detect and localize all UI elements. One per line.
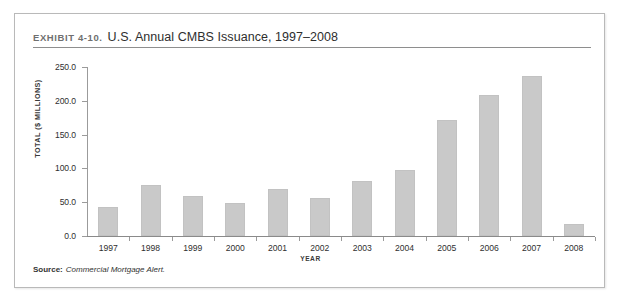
source-text: Commercial Mortgage Alert.	[66, 265, 165, 274]
x-tick-label: 2003	[353, 243, 372, 253]
x-tick-mark	[299, 237, 300, 241]
chart-plot-area: TOTAL ($ MILLIONS) 0.0 50.0 100.0 150.0 …	[15, 14, 606, 289]
x-tick-label: 1998	[141, 243, 160, 253]
x-tick-mark	[172, 237, 173, 241]
bar-2004	[395, 170, 415, 236]
x-tick-mark	[214, 237, 215, 241]
x-tick-label: 2004	[395, 243, 414, 253]
x-tick-mark	[510, 237, 511, 241]
x-tick-label: 2005	[437, 243, 456, 253]
x-tick-label: 2000	[226, 243, 245, 253]
bar-2006	[479, 95, 499, 236]
x-tick-label: 2002	[310, 243, 329, 253]
bar-1998	[141, 185, 161, 236]
bar-1999	[183, 196, 203, 236]
bar-2008	[564, 224, 584, 236]
x-tick-label: 1997	[99, 243, 118, 253]
bar-2001	[268, 189, 288, 236]
bar-1997	[98, 207, 118, 236]
x-tick-mark	[553, 237, 554, 241]
x-tick-mark	[341, 237, 342, 241]
x-axis-title: YEAR	[15, 255, 606, 262]
x-tick-mark	[129, 237, 130, 241]
bar-2005	[437, 120, 457, 236]
source-note: Source:Commercial Mortgage Alert.	[33, 265, 165, 274]
bar-2002	[310, 198, 330, 236]
x-tick-mark	[468, 237, 469, 241]
x-tick-mark	[595, 237, 596, 241]
x-tick-label: 2008	[564, 243, 583, 253]
x-tick-label: 2001	[268, 243, 287, 253]
x-tick-label: 1999	[183, 243, 202, 253]
x-tick-mark	[256, 237, 257, 241]
x-tick-label: 2006	[480, 243, 499, 253]
bar-2003	[352, 181, 372, 236]
x-tick-mark	[383, 237, 384, 241]
bar-2000	[225, 203, 245, 236]
exhibit-frame: EXHIBIT 4-10.U.S. Annual CMBS Issuance, …	[14, 13, 605, 288]
bar-2007	[522, 76, 542, 236]
x-tick-label: 2007	[522, 243, 541, 253]
x-tick-mark	[426, 237, 427, 241]
source-label: Source:	[33, 265, 63, 274]
